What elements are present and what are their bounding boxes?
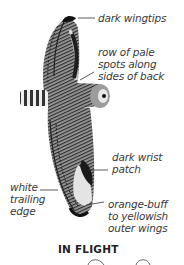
partial-next-figure [0, 0, 184, 265]
